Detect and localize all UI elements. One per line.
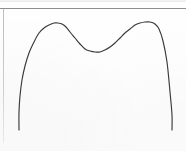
- plot-area: [0, 0, 186, 151]
- bimodal-curve-svg: [0, 0, 186, 151]
- bimodal-density-curve: [19, 22, 172, 130]
- figure-container: [0, 0, 186, 151]
